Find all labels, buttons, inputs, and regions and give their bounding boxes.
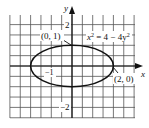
point-label-right: (2, 0) <box>114 74 134 84</box>
y-tick-2: 2 <box>65 20 70 30</box>
x-axis-label: x <box>140 69 145 79</box>
eq-mid: = 4 − 4y <box>94 32 127 42</box>
y-axis-arrow-icon <box>69 6 75 14</box>
y-axis-label: y <box>63 3 68 13</box>
x-tick-neg1: −1 <box>45 68 54 77</box>
point-label-top: (0, 1) <box>41 31 61 41</box>
eq-exp2: 2 <box>127 32 130 38</box>
ellipse-chart: y x 2 −2 −1 (0, 1) (2, 0) x2 = 4 − 4y2 <box>0 0 149 128</box>
y-tick-neg2: −2 <box>60 102 70 112</box>
